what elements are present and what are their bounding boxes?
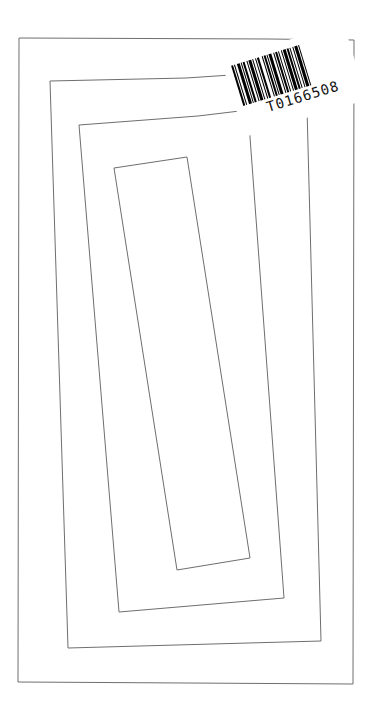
second-rectangle [50,70,321,648]
outer-rectangle [18,38,354,684]
third-rectangle [79,110,284,612]
inner-rectangle [114,157,250,570]
